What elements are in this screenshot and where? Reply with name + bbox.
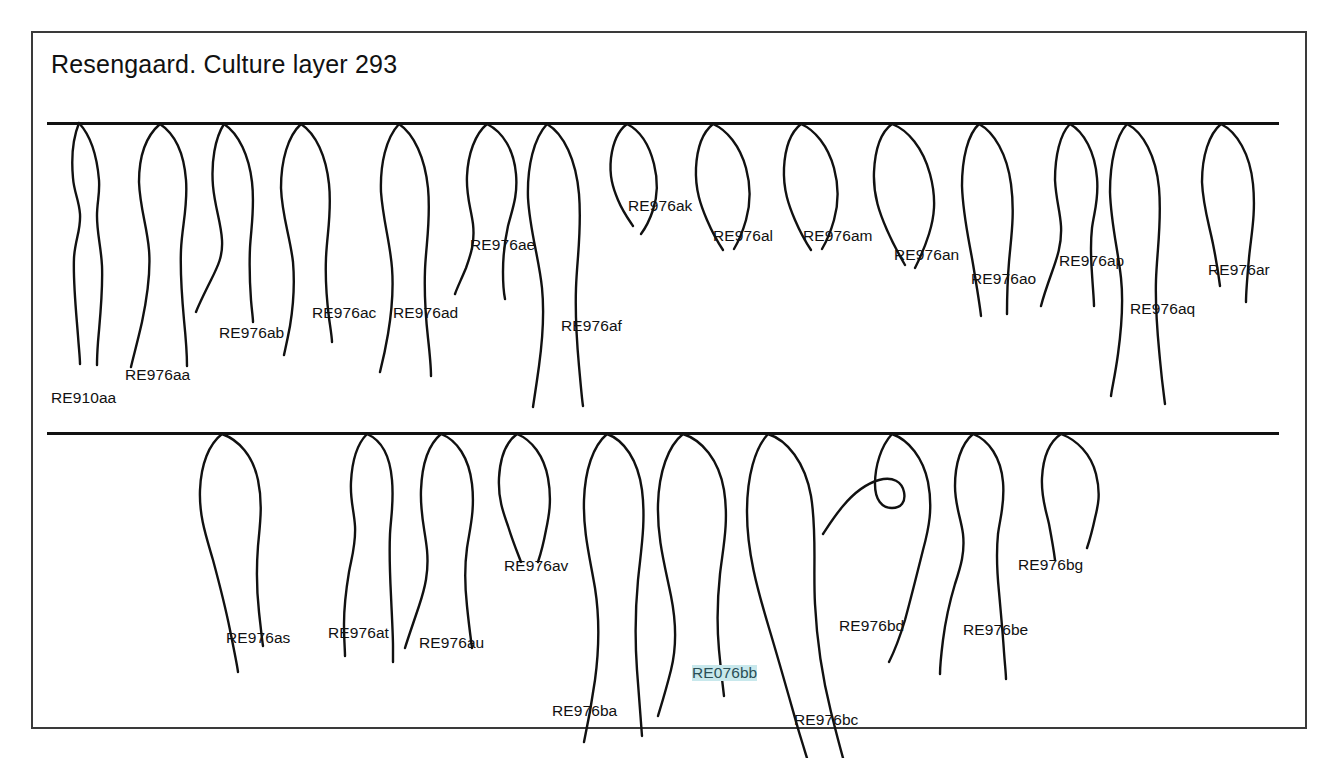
- row-2-profile-stroke: [973, 434, 1006, 679]
- row-2-profile-stroke: [768, 434, 849, 758]
- profile-label-re976be: RE976be: [963, 622, 1028, 638]
- figure-plate: Resengaard. Culture layer 293 RE910aaRE9…: [31, 31, 1307, 729]
- row-2-profile-stroke: [441, 434, 473, 648]
- profile-label-re976au: RE976au: [419, 635, 484, 651]
- row-2-profile-stroke: [1042, 434, 1061, 560]
- row-2-profile-stroke: [683, 434, 726, 696]
- profile-label-re976ba: RE976ba: [552, 703, 617, 719]
- profile-label-re976bd: RE976bd: [839, 618, 904, 634]
- row-2-profile-drawings: [47, 432, 1287, 732]
- row-2-profile-stroke: [499, 434, 521, 562]
- row-2-profile-stroke: [658, 434, 683, 716]
- row-2-profile-stroke: [940, 434, 973, 674]
- row-2-profile-stroke: [584, 434, 607, 742]
- row-2-profile-stroke: [344, 434, 367, 656]
- row-2-profile-stroke: [405, 434, 441, 648]
- row-2-profile-stroke: [1061, 434, 1099, 548]
- profile-label-re976as: RE976as: [226, 630, 290, 646]
- profile-label-re976av: RE976av: [504, 558, 568, 574]
- profile-label-re976bc: RE976bc: [794, 712, 858, 728]
- row-2-profile-stroke: [517, 434, 550, 562]
- row-2-profile-stroke: [747, 434, 817, 758]
- profile-row-2: RE976asRE976atRE976auRE976avRE976baRE076…: [33, 33, 1305, 727]
- row-2-profile-stroke: [607, 434, 643, 736]
- row-2-profile-stroke: [222, 434, 263, 646]
- row-2-profile-stroke: [823, 434, 904, 534]
- profile-label-re076bb: RE076bb: [692, 665, 757, 681]
- profile-label-re976at: RE976at: [328, 625, 389, 641]
- profile-label-re976bg: RE976bg: [1018, 557, 1083, 573]
